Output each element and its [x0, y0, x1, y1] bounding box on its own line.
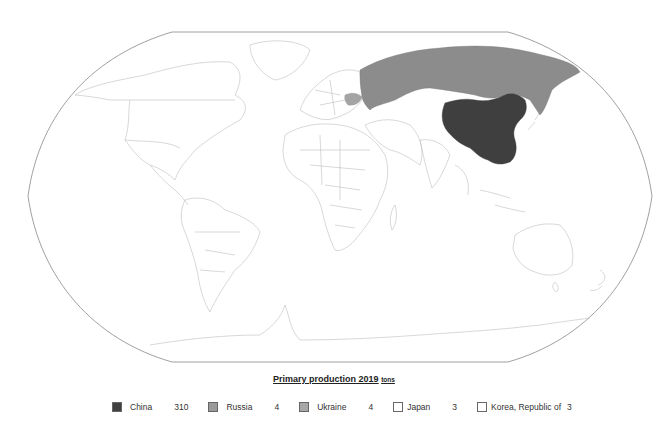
legend-item-ukraine: Ukraine 4	[299, 402, 373, 412]
legend-label: China	[130, 402, 152, 412]
legend-value: 310	[174, 402, 188, 412]
swatch-china	[112, 402, 122, 412]
legend-item-korea: Korea, Republic of 3	[477, 402, 572, 412]
swatch-russia	[208, 402, 218, 412]
legend-value: 3	[452, 402, 457, 412]
legend-item-japan: Japan 3	[393, 402, 457, 412]
legend-title: Primary production 2019 tons	[0, 374, 668, 384]
legend-unit: tons	[381, 376, 395, 383]
legend-value: 4	[274, 402, 279, 412]
legend-item-china: China 310	[112, 402, 188, 412]
legend-value: 4	[368, 402, 373, 412]
legend-label: Russia	[226, 402, 252, 412]
legend-label: Korea, Republic of	[491, 402, 561, 412]
world-map	[0, 0, 668, 370]
swatch-korea	[477, 402, 487, 412]
swatch-japan	[393, 402, 403, 412]
legend-item-russia: Russia 4	[208, 402, 279, 412]
legend-label: Japan	[407, 402, 430, 412]
swatch-ukraine	[299, 402, 309, 412]
legend-label: Ukraine	[317, 402, 346, 412]
legend: China 310 Russia 4 Ukraine 4 Japan 3 Kor…	[112, 400, 592, 414]
legend-title-text: Primary production 2019	[273, 374, 379, 384]
legend-value: 3	[567, 402, 572, 412]
